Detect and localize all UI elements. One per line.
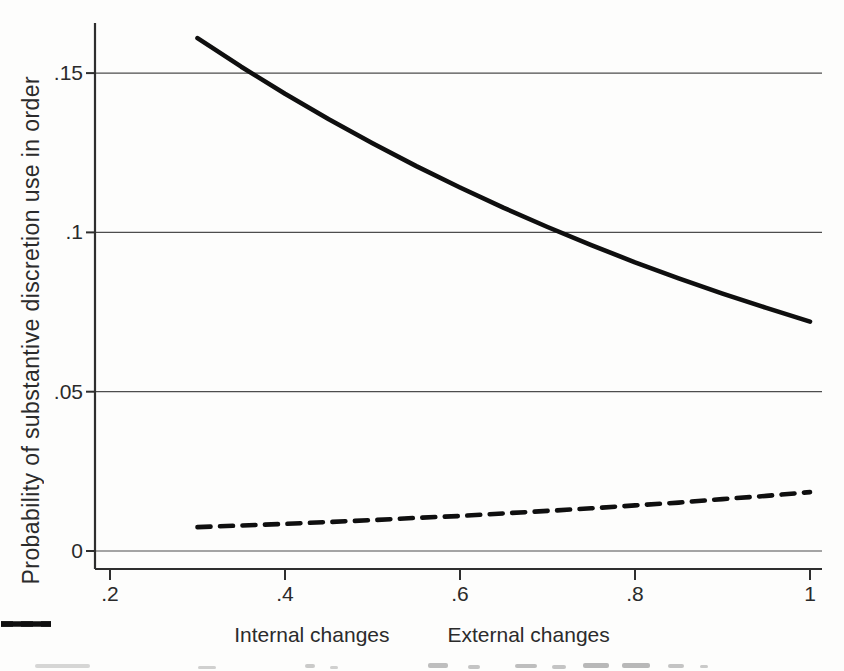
y-tick-label: .1	[65, 220, 83, 243]
cropped-caption-remnant	[583, 663, 609, 668]
series-line-dashed	[198, 492, 811, 527]
cropped-caption-remnant	[198, 666, 216, 669]
cropped-caption-remnant	[305, 664, 315, 668]
cropped-caption-remnant	[35, 664, 90, 668]
cropped-caption-remnant	[330, 666, 338, 669]
legend: Internal changes External changes	[0, 620, 844, 650]
cropped-caption-remnant	[428, 663, 448, 668]
cropped-caption-remnant	[552, 665, 566, 669]
series-line-solid	[198, 38, 811, 322]
chart-svg: 0.05.1.15.2.4.6.81	[0, 0, 844, 612]
cropped-caption-remnant	[468, 665, 480, 669]
x-tick-label: .8	[626, 582, 644, 605]
legend-label-internal: Internal changes	[234, 623, 389, 647]
y-tick-label: .15	[54, 61, 83, 84]
y-tick-label: .05	[54, 380, 83, 403]
y-axis-title: Probability of substantive discretion us…	[18, 76, 45, 584]
cropped-caption-remnants	[0, 658, 844, 671]
legend-item-internal: Internal changes	[234, 623, 389, 647]
cropped-caption-remnant	[668, 664, 684, 668]
x-tick-label: .2	[101, 582, 119, 605]
figure: 0.05.1.15.2.4.6.81 Probability of substa…	[0, 0, 844, 671]
x-tick-label: .4	[276, 582, 294, 605]
cropped-caption-remnant	[700, 665, 708, 668]
x-tick-label: .6	[451, 582, 469, 605]
y-axis-title-box: Probability of substantive discretion us…	[16, 40, 46, 620]
solid-line-swatch-icon	[0, 620, 52, 628]
cropped-caption-remnant	[515, 664, 537, 668]
x-tick-label: 1	[804, 582, 816, 605]
legend-label-external: External changes	[448, 623, 610, 647]
legend-item-external: External changes	[448, 623, 610, 647]
cropped-caption-remnant	[622, 663, 650, 668]
y-tick-label: 0	[71, 539, 83, 562]
